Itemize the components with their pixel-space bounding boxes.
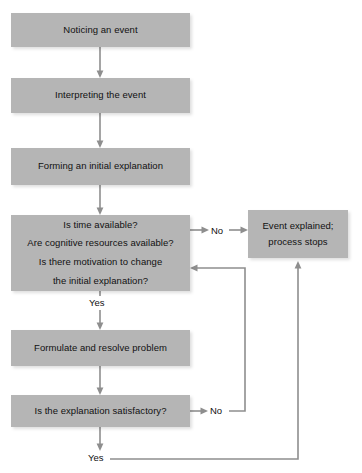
edge-label-no-top: No — [209, 225, 225, 237]
node-conditions-line-1: Is time available? — [63, 218, 137, 232]
arrowhead-formulate — [97, 323, 104, 331]
node-conditions-line-3: Is there motivation to change — [39, 255, 162, 269]
node-noticing-line-1: Noticing an event — [63, 23, 137, 37]
node-noticing-an-event: Noticing an event — [11, 13, 190, 47]
node-conditions-line-4: the initial explanation? — [53, 274, 148, 288]
arrowhead-explained — [295, 261, 302, 269]
node-formulate-and-resolve-problem: Formulate and resolve problem — [11, 330, 190, 366]
node-explained-line-1: Event explained; — [262, 219, 333, 233]
node-explanation-satisfactory-decision: Is the explanation satisfactory? — [11, 395, 190, 427]
arrowhead-no-bottom — [201, 408, 209, 415]
arrowhead-interpreting — [97, 71, 104, 79]
node-forming-line-1: Forming an initial explanation — [38, 159, 163, 173]
edge-no-loopback-to-conditions — [197, 268, 245, 411]
node-conditions-line-2: Are cognitive resources available? — [27, 236, 173, 250]
node-interpreting-the-event: Interpreting the event — [11, 78, 190, 113]
arrowhead-conditions — [97, 208, 104, 216]
arrowhead-yes-bottom — [97, 444, 104, 452]
edge-label-yes-bottom: Yes — [86, 452, 106, 464]
node-forming-initial-explanation: Forming an initial explanation — [11, 148, 190, 185]
flowchart-diagram: Noticing an event Interpreting the event… — [0, 0, 362, 473]
node-interpreting-line-1: Interpreting the event — [55, 88, 146, 102]
edge-label-yes-middle: Yes — [87, 297, 107, 309]
node-satisfactory-line-1: Is the explanation satisfactory? — [34, 404, 166, 418]
node-formulate-line-1: Formulate and resolve problem — [34, 341, 167, 355]
node-explained-line-2: process stops — [268, 235, 327, 249]
arrowhead-no-top-right — [241, 227, 249, 234]
arrowhead-satisfactory — [97, 388, 104, 396]
arrowhead-loopback-conditions — [190, 265, 198, 272]
node-conditions-decision: Is time available? Are cognitive resourc… — [11, 215, 190, 291]
arrowhead-forming — [97, 141, 104, 149]
edge-label-no-bottom: No — [208, 405, 224, 417]
arrowhead-no-top-left — [202, 227, 210, 234]
node-event-explained-process-stops: Event explained; process stops — [248, 210, 348, 258]
